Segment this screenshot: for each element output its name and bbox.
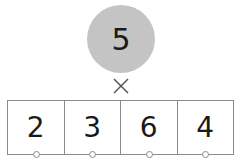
digit-value: 4 [196, 111, 214, 144]
connector-dot-icon [202, 151, 209, 158]
digit-cell: 4 [178, 101, 234, 154]
digit-row: 2 3 6 4 [7, 100, 234, 155]
digit-value: 6 [140, 111, 158, 144]
multiplier-circle: 5 [87, 5, 155, 73]
connector-dot-icon [89, 151, 96, 158]
digit-value: 2 [27, 111, 45, 144]
multiply-icon [111, 76, 131, 96]
digit-cell: 2 [8, 101, 65, 154]
digit-value: 3 [83, 111, 101, 144]
connector-dot-icon [146, 151, 153, 158]
digit-cell: 6 [121, 101, 178, 154]
digit-cell: 3 [65, 101, 122, 154]
multiplier-value: 5 [111, 22, 130, 57]
connector-dot-icon [33, 151, 40, 158]
